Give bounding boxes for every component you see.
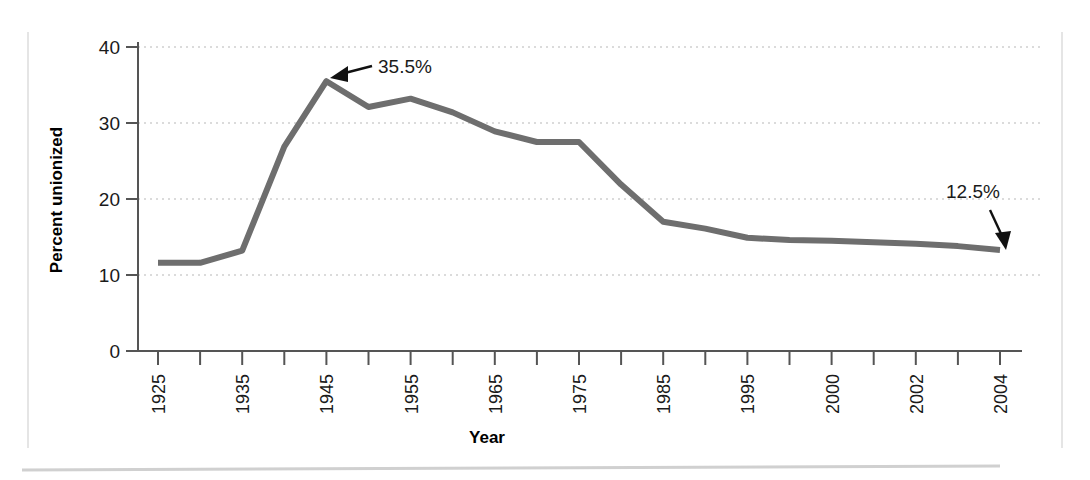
annotation-end-label: 12.5%	[946, 181, 1000, 202]
annotation-peak-label: 35.5%	[378, 56, 432, 77]
x-tick-label-1955: 1955	[402, 374, 422, 414]
x-tick-label-2000: 2000	[823, 374, 843, 414]
x-tick-label-1995: 1995	[738, 374, 758, 414]
x-tick-label-2004: 2004	[991, 374, 1011, 414]
y-tick-label-0: 0	[109, 341, 120, 362]
annotation-peak-arrow-head	[330, 66, 348, 82]
y-tick-label-20: 20	[99, 189, 120, 210]
x-axis-title: Year	[469, 428, 505, 447]
x-tick-label-1935: 1935	[233, 374, 253, 414]
x-axis-tick-labels: 1925193519451955196519751985199520002002…	[149, 374, 1011, 414]
data-line-percent-unionized	[158, 81, 1000, 263]
x-tick-label-1965: 1965	[486, 374, 506, 414]
y-axis-title: Percent unionized	[47, 127, 66, 273]
x-tick-label-2002: 2002	[907, 374, 927, 414]
x-tick-label-1925: 1925	[149, 374, 169, 414]
annotation-peak: 35.5%	[330, 56, 432, 82]
percent-unionized-line-chart: 40 30 20 10 0 Percent unionized 19251935…	[0, 0, 1090, 480]
x-tick-label-1985: 1985	[654, 374, 674, 414]
y-axis-ticks	[126, 47, 138, 351]
footer-rule	[22, 466, 1000, 470]
x-tick-label-1975: 1975	[570, 374, 590, 414]
chart-figure: 40 30 20 10 0 Percent unionized 19251935…	[0, 0, 1090, 480]
x-tick-label-1945: 1945	[317, 374, 337, 414]
y-tick-label-40: 40	[99, 37, 120, 58]
y-tick-label-10: 10	[99, 265, 120, 286]
y-tick-label-30: 30	[99, 113, 120, 134]
annotation-end: 12.5%	[946, 181, 1011, 250]
x-axis-ticks	[158, 351, 1000, 365]
